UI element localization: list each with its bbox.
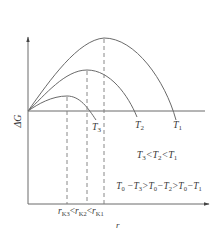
- curve-T1: [28, 38, 176, 120]
- curve-T3: [28, 96, 96, 120]
- critical-radius-relation: rK3<rK2<rK1: [58, 206, 104, 217]
- curve-label-T2: T2: [135, 119, 145, 132]
- undercooling-relation: T0 −T3>T0−T2>T0−T1: [116, 181, 202, 192]
- nucleation-free-energy-diagram: ΔG T3 T2 T1 T3<T2<T1 T0 −T3>T0−T2>T0−T1 …: [0, 0, 223, 240]
- curve-label-T1: T1: [173, 119, 183, 132]
- temperature-relation: T3<T2<T1: [137, 149, 178, 162]
- x-axis-label: r: [116, 220, 120, 230]
- curve-label-T3: T3: [92, 121, 102, 134]
- curve-T2: [28, 70, 137, 117]
- y-axis-label: ΔG: [12, 114, 23, 128]
